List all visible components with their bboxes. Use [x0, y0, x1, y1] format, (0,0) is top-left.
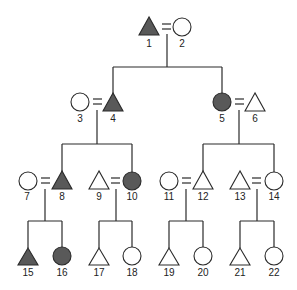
individual-5: 5 — [213, 93, 231, 124]
descent-line-5-6 — [203, 110, 274, 172]
individual-15: 15 — [18, 248, 38, 278]
label-11: 11 — [164, 191, 175, 202]
individual-3: 3 — [71, 93, 89, 124]
individual-17: 17 — [89, 248, 109, 278]
marriage-1-2 — [162, 24, 171, 29]
label-8: 8 — [59, 191, 65, 202]
individual-7: 7 — [19, 172, 37, 202]
label-19: 19 — [163, 267, 175, 278]
label-16: 16 — [56, 267, 68, 278]
male-empty-triangle-icon — [89, 171, 109, 189]
marriage-13-14 — [252, 178, 261, 183]
individual-18: 18 — [123, 247, 141, 278]
individual-21: 21 — [230, 248, 250, 278]
label-10: 10 — [126, 191, 138, 202]
individual-1: 1 — [139, 17, 159, 49]
individual-14: 14 — [265, 172, 283, 202]
female-empty-circle-icon — [265, 172, 283, 190]
descent-line-1-2 — [113, 34, 222, 95]
descent-line-3-4 — [62, 110, 132, 173]
individual-12: 12 — [193, 171, 213, 202]
individual-13: 13 — [230, 171, 250, 202]
label-15: 15 — [22, 267, 34, 278]
individual-2: 2 — [173, 18, 191, 49]
label-6: 6 — [252, 113, 258, 124]
female-filled-circle-icon — [123, 172, 141, 190]
label-21: 21 — [234, 267, 246, 278]
female-empty-circle-icon — [265, 247, 283, 265]
marriage-7-8 — [41, 178, 50, 183]
individual-11: 11 — [160, 172, 178, 202]
male-filled-triangle-icon — [139, 17, 159, 35]
female-empty-circle-icon — [71, 93, 89, 111]
male-empty-triangle-icon — [230, 248, 250, 265]
label-13: 13 — [234, 191, 246, 202]
label-9: 9 — [96, 191, 102, 202]
female-empty-circle-icon — [19, 172, 37, 190]
descent-line-7-8 — [28, 189, 62, 248]
marriage-3-4 — [93, 99, 102, 104]
female-filled-circle-icon — [213, 93, 231, 111]
label-18: 18 — [126, 267, 138, 278]
female-empty-circle-icon — [123, 247, 141, 265]
label-12: 12 — [197, 191, 209, 202]
female-empty-circle-icon — [173, 18, 191, 36]
male-filled-triangle-icon — [103, 93, 123, 111]
marriage-11-12 — [182, 178, 191, 183]
individual-6: 6 — [245, 93, 265, 124]
label-22: 22 — [268, 267, 280, 278]
label-14: 14 — [268, 191, 280, 202]
label-1: 1 — [146, 38, 152, 49]
label-2: 2 — [179, 38, 185, 49]
female-empty-circle-icon — [194, 247, 212, 265]
label-5: 5 — [219, 113, 225, 124]
individual-4: 4 — [103, 93, 123, 124]
individual-20: 20 — [194, 247, 212, 278]
individual-16: 16 — [53, 247, 71, 278]
individual-9: 9 — [89, 171, 109, 202]
marriage-9-10 — [111, 178, 120, 183]
female-empty-circle-icon — [160, 172, 178, 190]
label-4: 4 — [110, 113, 116, 124]
label-20: 20 — [197, 267, 209, 278]
individual-8: 8 — [52, 171, 72, 202]
label-7: 7 — [24, 191, 30, 202]
male-empty-triangle-icon — [230, 171, 250, 189]
male-filled-triangle-icon — [18, 248, 38, 265]
male-filled-triangle-icon — [52, 171, 72, 189]
individual-19: 19 — [159, 248, 179, 278]
individual-10: 10 — [123, 172, 141, 202]
male-empty-triangle-icon — [89, 248, 109, 265]
label-3: 3 — [77, 113, 83, 124]
marriage-5-6 — [235, 99, 244, 104]
male-empty-triangle-icon — [193, 171, 213, 189]
label-17: 17 — [93, 267, 105, 278]
male-empty-triangle-icon — [159, 248, 179, 265]
male-empty-triangle-icon — [245, 93, 265, 111]
individual-22: 22 — [265, 247, 283, 278]
pedigree-diagram: 1 2 3 4 5 6 — [0, 0, 297, 290]
female-filled-circle-icon — [53, 247, 71, 265]
